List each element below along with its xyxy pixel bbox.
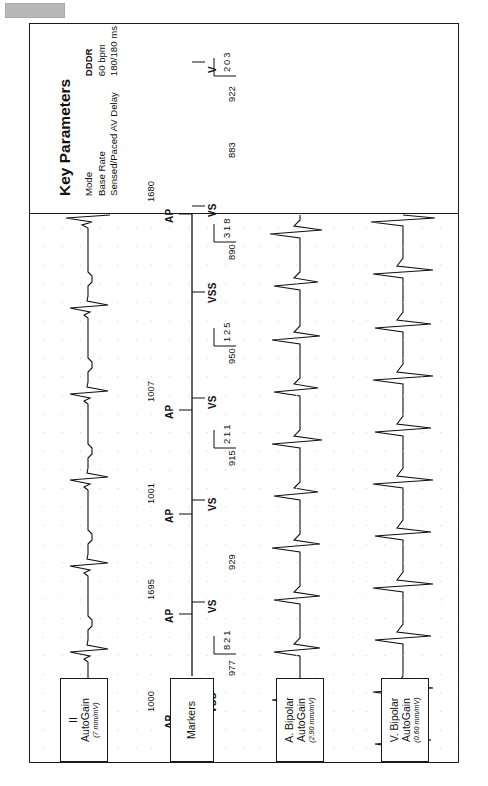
channel-caption-atrial-egm[interactable]: A. Bipolar AutoGain (2.90 mm/mV) [276, 678, 324, 762]
key-parameter-row: Sensed/Paced AV Delay180/180 msAutoCaptu… [108, 0, 121, 196]
window-titlebar-chip [5, 3, 65, 18]
channel-name: II [68, 717, 80, 723]
channel-markers: Markers APAPAPAPAP VSSVSVSVSVSSVSV 10001… [138, 214, 246, 762]
channel-gain-value: (0.60 mm/mV) [413, 697, 421, 743]
key-parameter-row: ModeDDDRMax Track Rate120 bpmVentricular… [83, 0, 96, 196]
key-parameter-value: 60 bpm [96, 0, 109, 76]
interval-value-lower: 883 [226, 142, 237, 158]
channel-atrial-egm: A. Bipolar AutoGain (2.90 mm/mV) [246, 214, 353, 762]
channel-surface-ecg: II AutoGain (7 mm/mV) [30, 214, 138, 762]
channel-name: Markers [186, 701, 198, 739]
interval-value-upper: 1680 [145, 181, 156, 202]
report-frame: II AutoGain (7 mm/mV) Markers APAPAPAPAP… [29, 23, 459, 763]
channel-ventricular-egm: V. Bipolar AutoGain (0.60 mm/mV) [353, 214, 460, 762]
key-parameter-label: Sensed/Paced AV Delay [108, 76, 121, 196]
key-parameters-table: ModeDDDRMax Track Rate120 bpmVentricular… [83, 0, 121, 196]
interval-stack: 2 0 3 [222, 53, 231, 72]
channel-caption-surface-ecg[interactable]: II AutoGain (7 mm/mV) [60, 678, 108, 762]
marker-label-ventricular: V [207, 66, 218, 73]
key-parameter-value: 180/180 ms [108, 0, 121, 76]
key-parameter-label: Base Rate [96, 76, 109, 196]
ecg-report-stage: II AutoGain (7 mm/mV) Markers APAPAPAPAP… [29, 23, 459, 763]
key-parameters-heading: Key Parameters [56, 38, 74, 196]
channel-name: V. Bipolar [389, 698, 401, 743]
channel-caption-ventricular-egm[interactable]: V. Bipolar AutoGain (0.60 mm/mV) [381, 678, 429, 762]
channel-name: A. Bipolar [284, 697, 296, 743]
channel-gain-value: (2.90 mm/mV) [308, 697, 316, 743]
channel-caption-markers[interactable]: Markers [170, 678, 214, 762]
key-parameter-label: Mode [83, 76, 96, 196]
channel-gain-value: (7 mm/mV) [92, 702, 100, 738]
key-parameter-value: DDDR [83, 0, 96, 76]
key-parameters-panel: Key Parameters ModeDDDRMax Track Rate120… [56, 38, 121, 196]
interval-value-lower: 922 [226, 86, 237, 102]
key-parameter-row: Base Rate60 bpmMax Sensor Rate130 bpmRat… [96, 0, 109, 196]
